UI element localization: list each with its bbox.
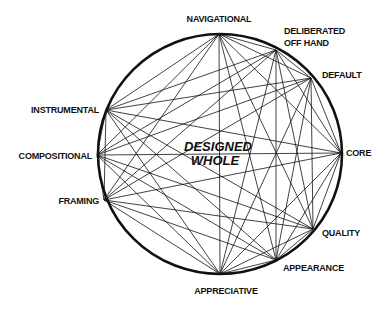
edge-deliberated-core	[276, 50, 341, 153]
edge-default-appreciative	[220, 78, 311, 274]
node-label-navigational: NAVIGATIONAL	[187, 14, 252, 24]
edge-navigational-instrumental	[106, 34, 219, 110]
node-label-compositional: COMPOSITIONAL	[19, 151, 93, 161]
edge-navigational-core	[219, 34, 341, 153]
node-label-core: CORE	[346, 148, 371, 158]
edge-core-appearance	[276, 153, 341, 260]
node-label-appreciative: APPRECIATIVE	[194, 286, 258, 296]
designed-whole-diagram: NAVIGATIONALDELIBERATEDOFF HANDDEFAULTCO…	[0, 0, 388, 312]
node-label-appearance: APPEARANCE	[283, 263, 344, 273]
node-label-deliberated: DELIBERATEDOFF HAND	[284, 26, 346, 48]
node-label-instrumental: INSTRUMENTAL	[31, 105, 100, 115]
node-label-framing: FRAMING	[58, 196, 99, 206]
center-label: DESIGNEDWHOLE	[184, 139, 253, 168]
node-label-default: DEFAULT	[322, 70, 362, 80]
node-label-quality: QUALITY	[322, 228, 360, 238]
edge-quality-framing	[104, 200, 313, 229]
edge-appreciative-framing	[104, 200, 220, 274]
edge-deliberated-quality	[276, 50, 313, 229]
edge-appreciative-instrumental	[106, 110, 220, 274]
edge-deliberated-instrumental	[106, 50, 276, 110]
